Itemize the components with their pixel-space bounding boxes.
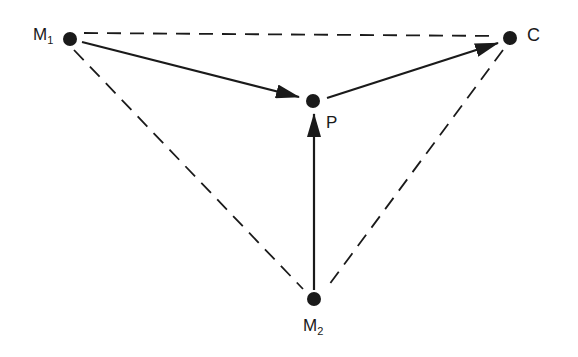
label-p: P xyxy=(326,114,337,131)
label-p-text: P xyxy=(326,113,337,132)
dashed-edge-m1-c xyxy=(84,33,498,36)
triangle-diagram xyxy=(0,0,578,357)
arrow-p-to-c xyxy=(327,43,498,98)
label-m2-text: M xyxy=(303,316,317,335)
label-m1-subscript: 1 xyxy=(47,34,53,46)
label-c-text: C xyxy=(527,25,540,45)
dashed-edge-m1-m2 xyxy=(74,50,303,289)
dashed-edge-c-m2 xyxy=(326,50,503,289)
node-m2 xyxy=(307,292,321,306)
node-p xyxy=(306,94,320,108)
label-m1-text: M xyxy=(33,25,47,44)
label-m2-subscript: 2 xyxy=(317,325,323,337)
node-c xyxy=(503,31,517,45)
arrow-m1-to-p xyxy=(82,42,299,97)
label-m1: M1 xyxy=(33,26,53,46)
node-m1 xyxy=(63,32,77,46)
label-m2: M2 xyxy=(303,317,323,337)
label-c: C xyxy=(527,26,540,44)
